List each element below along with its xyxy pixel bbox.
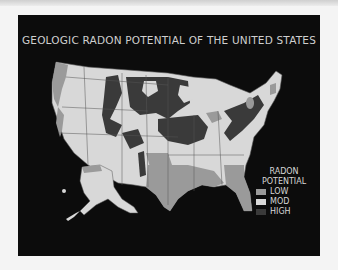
- legend-swatch-low: [256, 189, 266, 195]
- legend-item-low: LOW: [256, 187, 314, 197]
- low-new-england: [270, 83, 276, 95]
- us-radon-map: [18, 15, 320, 256]
- legend-swatch-high: [256, 209, 266, 215]
- legend-label-mod: MOD: [270, 197, 289, 207]
- low-oval-ne: [246, 97, 254, 109]
- map-panel: GEOLOGIC RADON POTENTIAL OF THE UNITED S…: [18, 15, 320, 256]
- legend: RADON POTENTIAL LOW MOD HIGH: [254, 167, 314, 217]
- legend-heading-1: RADON: [254, 167, 314, 177]
- legend-label-low: LOW: [270, 187, 288, 197]
- legend-label-high: HIGH: [270, 207, 291, 217]
- top-edge: [0, 0, 338, 6]
- legend-swatch-mod: [256, 199, 266, 205]
- aleutians: [66, 211, 80, 221]
- low-gulf-coast: [146, 165, 224, 211]
- hawaii: [62, 189, 66, 193]
- low-southeast: [224, 165, 252, 211]
- legend-item-high: HIGH: [256, 207, 314, 217]
- legend-item-mod: MOD: [256, 197, 314, 207]
- legend-heading-2: POTENTIAL: [254, 177, 314, 187]
